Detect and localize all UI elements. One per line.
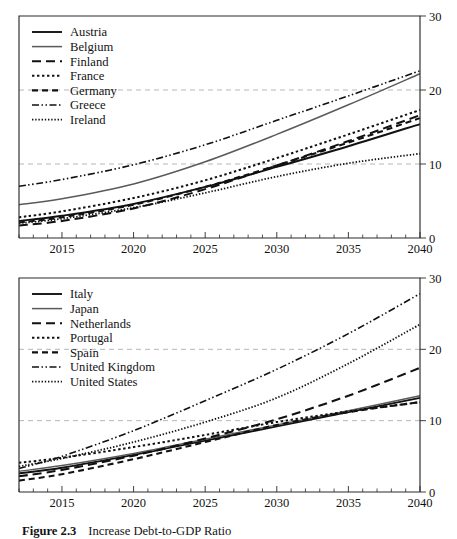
legend-label-france: France: [70, 69, 105, 83]
figure-caption: Figure 2.3Increase Debt-to-GDP Ratio: [22, 524, 442, 539]
x-tick-label: 2025: [193, 242, 218, 256]
series-line-spain: [19, 402, 420, 480]
legend-label-austria: Austria: [70, 25, 107, 39]
chart-panel-bottom: 2015202020252030203520400102030ItalyJapa…: [0, 266, 457, 516]
x-tick-label: 2030: [264, 242, 289, 256]
line-chart-bottom: 2015202020252030203520400102030ItalyJapa…: [0, 266, 457, 516]
y-tick-label: 10: [429, 414, 442, 428]
x-tick-label: 2015: [49, 242, 74, 256]
x-tick-label: 2025: [193, 496, 218, 510]
figure-container: 2015202020252030203520400102030AustriaBe…: [0, 0, 457, 539]
legend-label-japan: Japan: [70, 302, 99, 316]
series-line-japan: [19, 396, 420, 472]
y-tick-label: 0: [429, 232, 435, 246]
y-tick-label: 30: [429, 272, 442, 286]
x-tick-label: 2020: [121, 496, 146, 510]
legend-label-netherlands: Netherlands: [70, 317, 131, 331]
series-line-portugal: [19, 402, 420, 463]
x-tick-label: 2035: [336, 496, 361, 510]
figure-caption-label: Figure 2.3: [22, 524, 76, 538]
y-tick-label: 10: [429, 158, 442, 172]
legend-label-ireland: Ireland: [70, 113, 106, 127]
line-chart-top: 2015202020252030203520400102030AustriaBe…: [0, 0, 457, 262]
x-tick-label: 2015: [49, 496, 74, 510]
y-tick-label: 20: [429, 343, 442, 357]
figure-caption-title: Increase Debt-to-GDP Ratio: [88, 524, 231, 538]
legend-label-united-states: United States: [70, 375, 138, 389]
y-tick-label: 30: [429, 10, 442, 24]
legend-label-spain: Spain: [70, 346, 99, 360]
y-tick-label: 20: [429, 84, 442, 98]
series-line-germany: [19, 118, 420, 222]
legend-label-greece: Greece: [70, 98, 106, 112]
chart-panel-top: 2015202020252030203520400102030AustriaBe…: [0, 0, 457, 262]
legend-label-finland: Finland: [70, 55, 109, 69]
legend-label-italy: Italy: [70, 287, 94, 301]
x-tick-label: 2020: [121, 242, 146, 256]
legend-label-portugal: Portugal: [70, 331, 113, 345]
legend-label-belgium: Belgium: [70, 40, 114, 54]
legend-label-germany: Germany: [70, 84, 118, 98]
legend-label-united-kingdom: United Kingdom: [70, 360, 155, 374]
x-tick-label: 2030: [264, 496, 289, 510]
y-tick-label: 0: [429, 486, 435, 500]
x-tick-label: 2035: [336, 242, 361, 256]
